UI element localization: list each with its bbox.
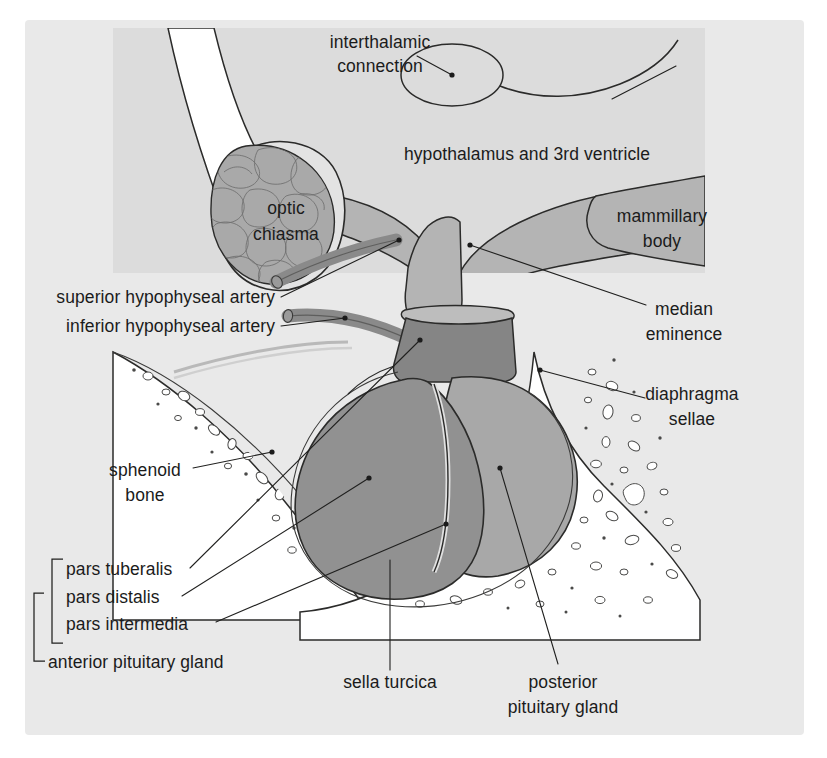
- pituitary-anatomy-diagram: interthalamic connection hypothalamus an…: [0, 0, 827, 758]
- label-median-eminence-line1: median: [655, 299, 713, 319]
- label-sella-turcica: sella turcica: [343, 672, 437, 692]
- label-posterior-pituitary-line1: posterior: [529, 672, 598, 692]
- label-pars-intermedia: pars intermedia: [66, 614, 188, 634]
- diagram-stage: interthalamic connection hypothalamus an…: [0, 0, 827, 758]
- label-interthalamic-connection-line1: interthalamic: [330, 32, 431, 52]
- pointer-median-eminence: [467, 242, 472, 247]
- label-hypothalamus: hypothalamus and 3rd ventricle: [404, 144, 650, 164]
- pointer-pars-intermedia: [443, 521, 448, 526]
- label-mammillary-body-line2: body: [643, 231, 681, 251]
- infundibulum-stalk: [393, 318, 516, 382]
- label-posterior-pituitary-line2: pituitary gland: [508, 697, 618, 717]
- pointer-diaphragma-sellae: [537, 367, 542, 372]
- pointer-inferior-artery: [342, 315, 347, 320]
- label-diaphragma-sellae-line2: sellae: [669, 409, 715, 429]
- label-anterior-pituitary-gland: anterior pituitary gland: [48, 652, 224, 672]
- label-sphenoid-bone-line2: bone: [125, 485, 164, 505]
- pointer-superior-artery: [396, 237, 401, 242]
- label-median-eminence-line2: eminence: [646, 324, 723, 344]
- label-optic-chiasma-line1: optic: [267, 198, 305, 218]
- label-superior-hypophyseal-artery: superior hypophyseal artery: [56, 287, 275, 307]
- pointer-sphenoid-bone: [269, 449, 274, 454]
- label-diaphragma-sellae-line1: diaphragma: [645, 384, 739, 404]
- label-sphenoid-bone-line1: sphenoid: [109, 460, 181, 480]
- pointer-pars-tuberalis: [417, 337, 422, 342]
- label-pars-tuberalis: pars tuberalis: [66, 559, 173, 579]
- pointer-pars-distalis: [366, 475, 371, 480]
- label-pars-distalis: pars distalis: [66, 587, 160, 607]
- label-optic-chiasma-line2: chiasma: [253, 224, 319, 244]
- label-mammillary-body-line1: mammillary: [617, 206, 708, 226]
- label-inferior-hypophyseal-artery: inferior hypophyseal artery: [66, 316, 275, 336]
- pointer-interthalamic: [449, 72, 454, 77]
- pointer-posterior-pituitary: [497, 465, 502, 470]
- label-interthalamic-connection-line2: connection: [337, 56, 423, 76]
